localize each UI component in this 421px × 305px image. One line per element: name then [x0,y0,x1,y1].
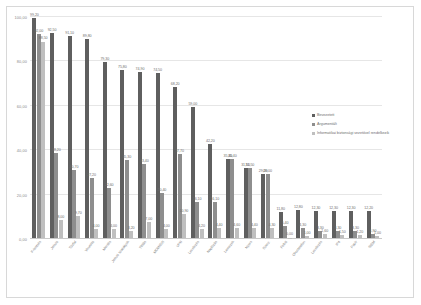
bar[interactable]: 88,50 [41,42,45,238]
x-axis-category: Jelszó [48,239,66,297]
legend-item[interactable]: Bevezetett [312,113,389,117]
bar-value-label: 4,40 [251,224,258,228]
y-axis-tick-label: 40,00 [17,148,27,153]
bar-value-label: 1,50 [339,231,346,235]
bar[interactable]: 4,00 [164,229,168,238]
bar[interactable]: 9,70 [76,216,80,238]
bar-value-label: 0,00 [286,233,293,237]
x-axis-category-label: Naplózás [206,240,218,254]
x-axis-category-label: SIEM [368,240,376,249]
bar-value-label: 4,00 [163,225,170,229]
bar-group: 99,2092,0088,50 [30,16,48,238]
x-axis-category-label: Szerz. [261,240,270,250]
bar-value-label: 68,20 [171,83,180,87]
bar[interactable]: 59,00 [191,107,195,238]
bar-value-label: 12,20 [364,207,373,211]
bar-value-label: 1,20 [356,231,363,235]
bar[interactable]: 92,00 [37,34,41,238]
bar[interactable]: 16,10 [213,202,217,238]
bar[interactable]: 4,40 [217,228,221,238]
legend-label: Bevezetett [317,113,334,117]
bar[interactable]: 29,00 [261,174,265,238]
bar-value-label: 35,40 [228,155,237,159]
bar[interactable]: 4,60 [235,228,239,238]
bar[interactable]: 22,60 [107,188,111,238]
bar-value-label: 88,50 [39,37,48,41]
bar[interactable]: 99,20 [32,18,36,238]
bar-group: 12,804,301,00 [294,16,312,238]
bar[interactable]: 31,50 [244,168,248,238]
bar[interactable]: 1,00 [375,236,379,238]
legend-item[interactable]: Informatikai biztonsági vezetővel rendel… [312,131,389,135]
bar[interactable]: 74,90 [138,72,142,238]
x-axis-category: Nyers [241,239,259,297]
bar[interactable]: 12,20 [367,211,371,238]
bar-value-label: 11,80 [276,208,284,212]
x-axis-category-label: F-testsés [30,240,42,254]
bar[interactable]: 4,30 [270,228,274,238]
bar[interactable]: 10,90 [182,214,186,238]
bar-value-label: 4,00 [110,225,117,229]
bar-group: 74,5020,404,00 [153,16,171,238]
legend-item[interactable]: Argumentált [312,122,389,126]
bar-value-label: 16,10 [193,198,202,202]
bar-group: 11,805,400,00 [276,16,294,238]
bar[interactable]: 35,40 [226,159,230,238]
x-axis-category: Szerz. [259,239,277,297]
bar-value-label: 10,90 [180,210,189,214]
bar[interactable]: 37,70 [178,154,182,238]
bar[interactable]: 33,40 [142,164,146,238]
bar-group: 92,5038,208,00 [48,16,66,238]
bar-value-label: 4,30 [299,224,306,228]
bar[interactable]: 16,10 [195,202,199,238]
bar[interactable]: 0,00 [288,238,292,239]
x-axis-category: Jelszó szabályok [118,239,136,297]
bar[interactable]: 1,00 [305,236,309,238]
bar[interactable]: 74,50 [156,73,160,238]
x-axis-category: MDM/IDS [153,239,171,297]
bar-value-label: 4,40 [216,224,223,228]
bar[interactable]: 42,20 [208,144,212,238]
legend-swatch-icon [312,114,315,117]
bar[interactable]: 1,20 [358,235,362,238]
bar[interactable]: 3,20 [129,231,133,238]
bar-group: 75,8035,303,20 [118,16,136,238]
bar[interactable]: 8,00 [59,220,63,238]
bar-value-label: 89,80 [83,35,92,39]
bar[interactable]: 12,30 [314,211,318,238]
bar[interactable]: 7,00 [147,222,151,238]
bar[interactable]: 20,40 [160,193,164,238]
bar[interactable]: 29,00 [266,174,270,238]
bar[interactable]: 27,20 [90,178,94,238]
bar[interactable]: 92,50 [50,33,54,238]
legend-swatch-icon [312,123,315,126]
x-axis-category: Titítás [136,239,154,297]
bar-value-label: 12,30 [347,207,356,211]
bar[interactable]: 68,20 [173,87,177,238]
bar[interactable]: 4,40 [252,228,256,238]
bar[interactable]: 91,10 [68,36,72,238]
bar[interactable]: 79,30 [103,62,107,238]
bar[interactable]: 4,20 [200,229,204,238]
bar[interactable]: 30,70 [72,170,76,238]
bar[interactable]: 38,20 [54,153,58,238]
x-axis-category-label: MDM/IDS [153,240,166,254]
x-axis-category: Papír [347,239,365,297]
bar[interactable]: 1,60 [323,234,327,238]
bar-group: 68,2037,7010,90 [171,16,189,238]
bar-value-label: 12,80 [294,206,303,210]
bar-value-label: 16,10 [210,198,219,202]
bar-value-label: 8,00 [57,216,64,220]
bar[interactable]: 4,00 [112,229,116,238]
bar[interactable]: 89,80 [85,39,89,238]
x-axis-category: F-testsés [30,239,48,297]
x-axis-category-label: Levelezés [311,240,324,255]
x-axis-category: SIEM [364,239,382,297]
bar[interactable]: 4,00 [94,229,98,238]
bar[interactable]: 12,30 [349,211,353,238]
legend-swatch-icon [312,132,315,135]
x-axis-category: Vírusirtó [83,239,101,297]
bar[interactable]: 1,50 [340,235,344,238]
bar[interactable]: 12,30 [332,211,336,238]
y-axis-tick-label: 20,00 [17,192,27,197]
